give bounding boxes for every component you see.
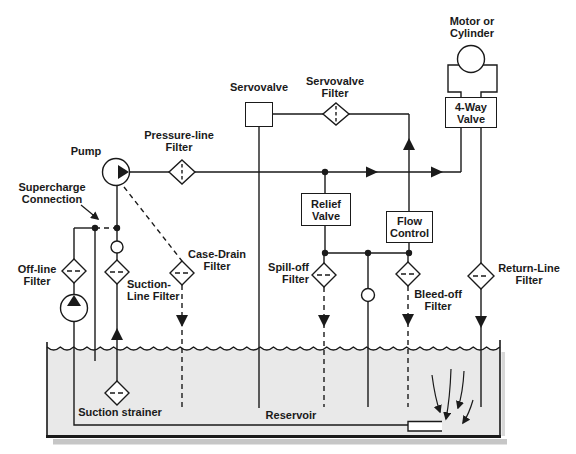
bleed-off-filter-label-line2: Filter: [403, 301, 473, 313]
junction-dot: [92, 225, 98, 231]
junction-dot: [322, 250, 328, 256]
pressure-line-filter-label: Pressure-line Filter: [129, 130, 229, 153]
tank-right-shadow: [502, 352, 506, 436]
manifold-check-valve: [362, 289, 375, 302]
reservoir-label: Reservoir: [241, 410, 341, 422]
supercharge-pointer-arrow: [81, 205, 98, 219]
spill-off-filter-symbol: [312, 263, 336, 287]
relief-valve-label-line1: Relief: [311, 198, 341, 210]
pressure-line-filter-label-line2: Filter: [129, 142, 229, 154]
suction-up-arrow: [111, 328, 123, 340]
case-drain-down-arrow: [176, 315, 188, 327]
junction-dots: [92, 169, 412, 256]
bleed-off-filter-label-line1: Bleed-off: [403, 289, 473, 301]
schematic-linework: [0, 0, 576, 454]
suction-line-filter-label: Suction- Line Filter: [127, 279, 227, 302]
suction-line-filter-label-line2: Line Filter: [127, 291, 227, 303]
motor-or-cylinder-label: Motor or Cylinder: [422, 16, 522, 39]
servovalve-filter-label-line2: Filter: [285, 88, 385, 100]
motor-label-line2: Cylinder: [422, 28, 522, 40]
junction-dot: [322, 169, 328, 175]
motor-or-cylinder-symbol: [448, 46, 497, 98]
main-pump-symbol: [103, 159, 130, 186]
pressure-line-filter-label-line1: Pressure-line: [129, 130, 229, 142]
off-line-filter-label-line1: Off-line: [0, 264, 74, 276]
suction-line-filter-label-line1: Suction-: [127, 279, 227, 291]
spill-off-filter-label: Spill-off Filter: [241, 262, 309, 285]
return-line-filter-label-line2: Filter: [484, 275, 574, 287]
tank-bottom-shadow: [53, 439, 507, 445]
pressure-flow-arrow-1: [366, 167, 378, 178]
supercharge-label-line2: Connection: [2, 194, 102, 206]
four-way-valve-box: 4-Way Valve: [445, 97, 497, 128]
flow-control-label-line2: Control: [390, 227, 429, 239]
suction-check-valve: [111, 241, 123, 253]
case-drain-filter-label-line1: Case-Drain: [167, 249, 267, 261]
diffuser-pipe-outlet: [408, 422, 442, 432]
suction-line-filter-symbol: [105, 260, 129, 284]
junction-dot: [114, 225, 120, 231]
relief-valve-box: Relief Valve: [301, 193, 351, 226]
pressure-line-filter-symbol: [169, 160, 195, 184]
relief-valve-label-line2: Valve: [312, 210, 340, 222]
supercharge-label-line1: Supercharge: [2, 182, 102, 194]
pressure-flow-arrow-2: [431, 167, 443, 178]
flow-control-box: Flow Control: [386, 211, 433, 243]
junction-dot: [406, 250, 412, 256]
bleed-off-down-arrow: [402, 314, 414, 326]
servovalve-filter-symbol: [323, 103, 349, 125]
servo-supply-up-arrow: [403, 138, 415, 150]
off-line-filter-label: Off-line Filter: [0, 264, 74, 287]
four-way-valve-label-line2: Valve: [457, 113, 485, 125]
off-line-pump-symbol: [61, 295, 88, 322]
return-down-arrow: [475, 316, 487, 328]
spill-off-filter-label-line1: Spill-off: [241, 262, 309, 274]
servovalve-box: [245, 102, 273, 127]
supercharge-connection-label: Supercharge Connection: [2, 182, 102, 205]
servovalve-filter-label-line1: Servovalve: [285, 76, 385, 88]
return-line-filter-label: Return-Line Filter: [484, 263, 574, 286]
return-line-filter-label-line1: Return-Line: [484, 263, 574, 275]
pump-label: Pump: [46, 146, 126, 158]
hydraulic-schematic: 4-Way Valve Relief Valve Flow Control Pu…: [0, 0, 576, 454]
spill-off-filter-label-line2: Filter: [241, 274, 309, 286]
off-line-filter-label-line2: Filter: [0, 276, 74, 288]
flow-control-label-line1: Flow: [397, 215, 422, 227]
spill-off-down-arrow: [318, 315, 330, 327]
motor-label-line1: Motor or: [422, 16, 522, 28]
bleed-off-filter-symbol: [396, 262, 420, 286]
four-way-valve-label-line1: 4-Way: [455, 101, 487, 113]
junction-dot: [365, 250, 371, 256]
bleed-off-filter-label: Bleed-off Filter: [403, 289, 473, 312]
servovalve-filter-label: Servovalve Filter: [285, 76, 385, 99]
suction-strainer-label: Suction strainer: [50, 407, 190, 419]
